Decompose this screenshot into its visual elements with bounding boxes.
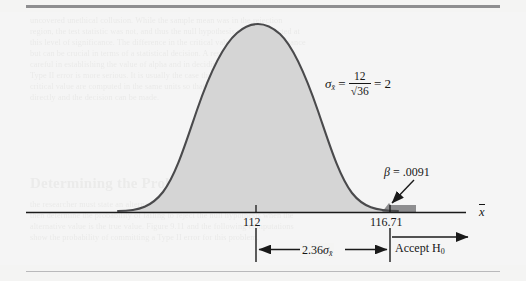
tick-label-116-71: 116.71	[370, 215, 403, 230]
measurement-label: 2.36σx̄	[300, 243, 334, 258]
beta-leader-arrow	[392, 180, 414, 203]
formula-equals: =	[338, 76, 345, 91]
sampling-distribution-area	[118, 24, 398, 212]
measurement-value: 2.36	[302, 243, 323, 257]
formula-denominator: √36	[349, 85, 371, 97]
sigma-xbar-formula: σx̄ = 12 √36 = 2	[325, 70, 391, 97]
accept-h0-label: Accept H0	[395, 241, 445, 256]
measurement-sigma: σx̄	[323, 243, 332, 258]
x-bar-glyph: x	[479, 205, 485, 220]
tick-label-112: 112	[243, 215, 261, 230]
beta-symbol: β	[384, 165, 390, 179]
x-axis-label: x	[479, 205, 485, 220]
formula-fraction: 12 √36	[349, 70, 371, 97]
formula-result: 2	[384, 76, 391, 91]
figure-stage: uncovered unethical collusion. While the…	[0, 0, 526, 281]
formula-equals-2: =	[374, 76, 381, 91]
formula-numerator: 12	[349, 70, 371, 82]
accept-h0-text: Accept H	[395, 241, 441, 255]
normal-curve-figure	[0, 0, 526, 281]
formula-sigma-symbol: σx̄	[325, 76, 335, 92]
beta-label: β = .0091	[384, 165, 430, 180]
accept-h0-subscript: 0	[441, 247, 445, 256]
beta-value: .0091	[403, 165, 430, 179]
fraction-bar	[349, 83, 371, 84]
beta-equals: =	[393, 165, 400, 179]
